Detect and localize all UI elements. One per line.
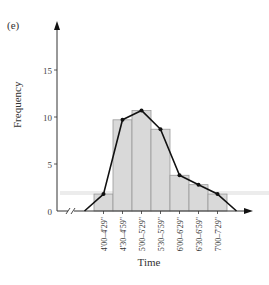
x-tick-label: 4'30–4'59" — [119, 217, 128, 251]
x-axis-arrow-icon — [244, 208, 253, 214]
histogram-bar — [208, 194, 227, 211]
x-tick-label: 5'00–5'29" — [138, 217, 147, 251]
polygon-point — [102, 192, 106, 196]
y-ticks: 051015 — [43, 66, 57, 217]
polygon-point — [140, 108, 144, 112]
y-tick-label: 5 — [48, 160, 53, 170]
y-tick-label: 15 — [43, 66, 53, 76]
x-tick-label: 6'30–6'59" — [195, 217, 204, 251]
histogram-bar — [151, 129, 170, 211]
x-tick-label: 7'00–7'29" — [214, 217, 223, 251]
x-tick-label: 4'00–4'29" — [100, 217, 109, 251]
y-tick-label: 10 — [43, 113, 53, 123]
polygon-point — [178, 173, 182, 177]
x-axis-label: Time — [138, 256, 161, 268]
histogram-chart: 051015 4'00–4'29"4'30–4'59"5'00–5'29"5'3… — [0, 0, 269, 285]
y-tick-label: 0 — [48, 207, 53, 217]
polygon-point — [121, 118, 125, 122]
histogram-bar — [170, 175, 189, 211]
histogram-bar — [94, 194, 113, 211]
histogram-bar — [132, 110, 151, 211]
histogram-bar — [113, 120, 132, 211]
x-ticks: 4'00–4'29"4'30–4'59"5'00–5'29"5'30–5'59"… — [100, 211, 223, 251]
x-tick-label: 6'00–6'29" — [176, 217, 185, 251]
histogram-bars — [94, 110, 227, 211]
polygon-point — [216, 192, 220, 196]
polygon-point — [159, 127, 163, 131]
polygon-point — [197, 183, 201, 187]
y-axis-arrow-icon — [54, 21, 60, 30]
x-tick-label: 5'30–5'59" — [157, 217, 166, 251]
